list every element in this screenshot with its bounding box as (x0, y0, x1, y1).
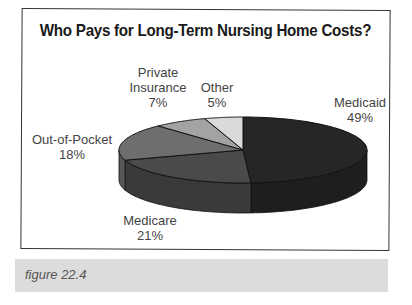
label-out-of-pocket-pct: 18% (22, 147, 122, 162)
label-medicaid-pct: 49% (320, 110, 400, 125)
label-other-pct: 5% (192, 95, 242, 110)
label-medicaid: Medicaid 49% (320, 95, 400, 125)
label-private-pct: 7% (118, 95, 198, 110)
pie-top-faces (119, 117, 367, 183)
label-private-name2: Insurance (118, 80, 198, 95)
figure-caption: figure 22.4 (25, 267, 86, 282)
label-medicaid-name: Medicaid (320, 95, 400, 110)
label-other-name: Other (192, 80, 242, 95)
label-private-name1: Private (118, 65, 198, 80)
label-other: Other 5% (192, 80, 242, 110)
label-medicare: Medicare 21% (110, 213, 190, 243)
label-out-of-pocket: Out-of-Pocket 18% (22, 132, 122, 162)
label-out-of-pocket-name: Out-of-Pocket (22, 132, 122, 147)
label-medicare-name: Medicare (110, 213, 190, 228)
label-medicare-pct: 21% (110, 228, 190, 243)
label-private-insurance: Private Insurance 7% (118, 65, 198, 110)
